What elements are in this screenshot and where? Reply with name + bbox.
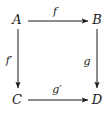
arrow-label-f: f: [53, 6, 57, 17]
arrow-label-g-prime: g′: [52, 84, 62, 95]
node-label-C: C: [12, 93, 22, 106]
node-label-A: A: [12, 13, 21, 26]
node-label-B: B: [92, 13, 102, 26]
arrow-label-g: g: [83, 56, 90, 67]
arrow-label-f-prime: f′: [6, 55, 13, 66]
commutative-diagram: A B C D f g f′ g′: [0, 0, 110, 115]
node-label-D: D: [92, 93, 102, 106]
